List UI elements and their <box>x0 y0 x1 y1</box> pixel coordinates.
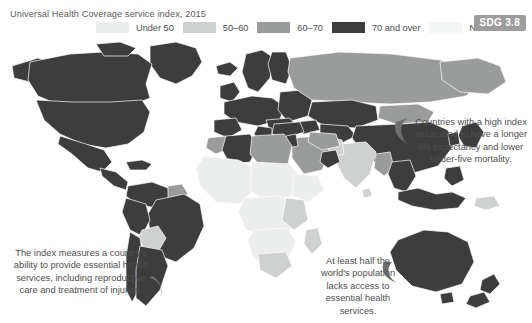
legend-swatch-icon <box>429 22 462 33</box>
legend-item-under-50[interactable]: Under 50 <box>96 22 174 33</box>
region-madagascar <box>304 228 322 254</box>
page-title <box>0 0 532 3</box>
region-caribbean <box>126 160 152 170</box>
region-greenland <box>150 42 202 84</box>
region-png <box>474 196 500 210</box>
map-legend: Under 50 50–60 60–70 70 and over No data <box>96 22 511 33</box>
annotation-right: Countries with a high index value tend t… <box>412 116 530 166</box>
region-sri-lanka <box>362 188 372 198</box>
region-south-africa <box>258 252 292 278</box>
legend-swatch-icon <box>257 22 290 33</box>
legend-label: 50–60 <box>223 23 249 33</box>
legend-label: Under 50 <box>136 23 174 33</box>
legend-item-70-and-over[interactable]: 70 and over <box>332 22 421 33</box>
legend-item-60-70[interactable]: 60–70 <box>257 22 323 33</box>
region-usa <box>36 100 150 148</box>
infographic-map-page: Universal Health Coverage service index,… <box>0 0 532 323</box>
region-central-america <box>100 168 128 190</box>
region-west-africa <box>196 156 258 204</box>
chart-subtitle: Universal Health Coverage service index,… <box>10 9 206 19</box>
region-scandinavia <box>242 50 274 92</box>
region-new-zealand <box>480 274 500 294</box>
annotation-center: At least half the world's population lac… <box>312 255 404 317</box>
region-kazakhstan <box>308 100 378 128</box>
region-malaysia-indonesia <box>398 188 466 210</box>
region-horn-africa <box>292 174 324 202</box>
legend-label: 70 and over <box>372 23 421 33</box>
region-new-zealand-south <box>466 292 490 308</box>
region-iceland <box>216 62 238 76</box>
legend-label: 60–70 <box>297 23 323 33</box>
region-philippines <box>444 166 464 186</box>
legend-item-50-60[interactable]: 50–60 <box>183 22 249 33</box>
region-tasmania <box>440 292 454 304</box>
legend-swatch-icon <box>332 22 365 33</box>
legend-swatch-icon <box>96 22 129 33</box>
sdg-badge: SDG 3.8 <box>474 15 526 31</box>
legend-swatch-icon <box>183 22 216 33</box>
annotation-left: The index measures a country's ability t… <box>8 247 154 297</box>
